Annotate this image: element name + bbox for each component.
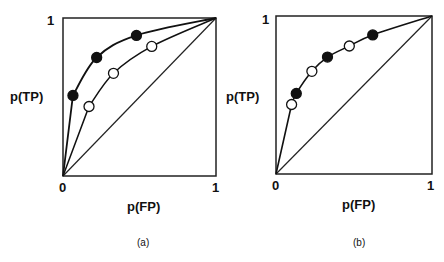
filled-data-point	[131, 30, 141, 40]
x-tick-zero-b: 0	[272, 178, 279, 193]
open-data-point	[108, 68, 118, 78]
y-tick-one-b: 1	[262, 12, 269, 27]
filled-data-point	[291, 88, 301, 98]
panel-a: 1 p(TP) 0 1 p(FP) (a)	[10, 13, 219, 248]
y-axis-label-a: p(TP)	[10, 89, 43, 104]
panel-b: 1 p(TP) 0 1 p(FP) (b)	[226, 12, 434, 248]
x-axis-label-a: p(FP)	[127, 199, 160, 214]
panel-caption-b: (b)	[353, 237, 365, 248]
filled-data-point	[368, 30, 378, 40]
filled-data-point	[322, 52, 332, 62]
filled-data-point	[92, 53, 102, 63]
y-axis-label-b: p(TP)	[226, 89, 259, 104]
data-points-b	[287, 30, 378, 110]
x-tick-zero-a: 0	[59, 180, 66, 195]
open-data-point	[84, 101, 94, 111]
data-points-a	[68, 30, 157, 111]
chance-diagonal-a	[63, 18, 216, 176]
panel-caption-a: (a)	[137, 237, 149, 248]
filled-data-point	[68, 90, 78, 100]
open-data-point	[307, 66, 317, 76]
open-data-point	[344, 41, 354, 51]
x-tick-one-a: 1	[212, 180, 219, 195]
x-tick-one-b: 1	[427, 178, 434, 193]
open-data-point	[147, 41, 157, 51]
x-axis-label-b: p(FP)	[342, 197, 375, 212]
roc-figure: 1 p(TP) 0 1 p(FP) (a) 1 p(TP) 0 1 p(FP) …	[0, 0, 444, 262]
y-tick-one-a: 1	[47, 13, 54, 28]
open-data-point	[287, 99, 297, 109]
